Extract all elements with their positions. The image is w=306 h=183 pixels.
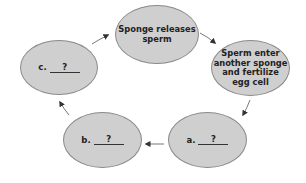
blank-line: ? [94, 135, 124, 145]
arrow-top-to-right [200, 33, 215, 43]
node-label: Sperm enter another sponge and fertilize… [214, 49, 288, 87]
blank-letter: c. [38, 63, 46, 73]
node-sponge-releases-sperm: Sponge releases sperm [115, 5, 199, 64]
fill-in-blank-b: b. ? [81, 135, 123, 145]
arrow-c-to-top [92, 35, 108, 44]
blank-letter: b. [81, 136, 90, 146]
node-c-blank: c. ? [20, 40, 98, 95]
blank-line: ? [198, 135, 228, 145]
blank-line: ? [50, 63, 80, 73]
node-sperm-fertilize-egg: Sperm enter another sponge and fertilize… [211, 40, 290, 96]
sponge-life-cycle-diagram: Sponge releases sperm Sperm enter anothe… [0, 0, 306, 183]
blank-letter: a. [187, 136, 196, 146]
node-b-blank: b. ? [63, 112, 142, 168]
fill-in-blank-a: a. ? [187, 135, 229, 145]
arrow-right-to-a [243, 100, 250, 115]
node-label: Sponge releases sperm [118, 25, 195, 44]
arrow-b-to-c [60, 102, 69, 115]
node-a-blank: a. ? [168, 112, 247, 168]
fill-in-blank-c: c. ? [38, 63, 79, 73]
